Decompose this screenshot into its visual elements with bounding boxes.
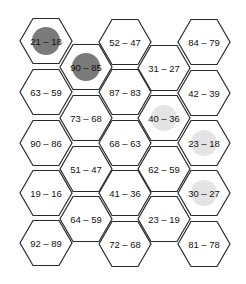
hex-range-label: 41 – 36 <box>109 188 141 199</box>
hex-range-label: 84 – 79 <box>188 37 220 48</box>
hex-range-label: 40 – 36 <box>148 113 180 124</box>
hex-range-label: 72 – 68 <box>109 239 141 250</box>
hex-range-label: 81 – 78 <box>188 239 220 250</box>
hex-range-label: 92 – 89 <box>30 238 62 249</box>
hex-range-label: 51 – 47 <box>70 164 102 175</box>
hex-range-label: 63 – 59 <box>30 87 62 98</box>
hex-cell[interactable]: 84 – 79 <box>178 19 230 64</box>
hex-range-label: 68 – 63 <box>109 138 141 149</box>
hex-range-label: 64 – 59 <box>70 214 102 225</box>
hex-cell[interactable]: 81 – 78 <box>178 221 230 266</box>
hex-range-label: 62 – 59 <box>148 164 180 175</box>
hex-range-label: 31 – 27 <box>148 63 180 74</box>
hex-cell[interactable]: 90 – 86 <box>20 120 72 165</box>
hex-range-label: 87 – 83 <box>109 87 141 98</box>
hex-range-label: 30 – 27 <box>188 188 220 199</box>
hex-range-label: 90 – 85 <box>70 62 102 73</box>
hex-cell[interactable]: 21 – 18 <box>20 18 72 63</box>
hex-range-label: 21 – 18 <box>30 36 62 47</box>
hex-range-label: 23 – 18 <box>188 138 220 149</box>
hex-range-label: 73 – 68 <box>70 113 102 124</box>
hex-cell[interactable]: 63 – 59 <box>20 69 72 114</box>
hex-range-label: 42 – 39 <box>188 88 220 99</box>
hex-range-label: 90 – 86 <box>30 138 62 149</box>
hex-board: 21 – 1863 – 5990 – 8619 – 1692 – 8990 – … <box>0 0 246 284</box>
hex-range-label: 52 – 47 <box>109 37 141 48</box>
hex-cell[interactable]: 42 – 39 <box>178 70 230 115</box>
hex-range-label: 23 – 19 <box>148 214 180 225</box>
hex-cell[interactable]: 23 – 18 <box>178 120 230 165</box>
hex-range-label: 19 – 16 <box>30 188 62 199</box>
